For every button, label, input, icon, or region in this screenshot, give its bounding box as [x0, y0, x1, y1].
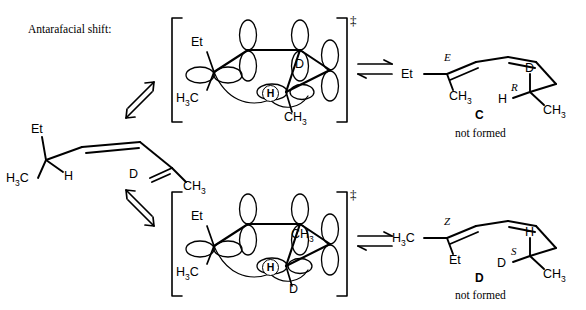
- product-C-alkene-descriptor: E: [444, 52, 451, 63]
- ts-top-hydrogen-circle-label: H: [262, 85, 279, 102]
- equilibrium-arrows-down: [126, 190, 154, 226]
- product-D-status-note: not formed: [455, 290, 506, 302]
- ts-bottom-ethyl-label: Et: [191, 210, 203, 223]
- product-C-methyl-left-label: CH3: [449, 90, 472, 105]
- reactant-deuterium-label: D: [129, 168, 138, 181]
- reaction-scheme: Antarafacial shift: Et H3C H D CH3 Et H3…: [0, 0, 586, 310]
- product-C-ethyl-label: Et: [401, 68, 413, 81]
- page-title: Antarafacial shift:: [28, 24, 111, 36]
- product-C-skeleton: [424, 57, 556, 105]
- product-D-deuterium-label: D: [497, 257, 506, 270]
- product-D-compound-label: D: [475, 272, 484, 284]
- product-C-status-note: not formed: [455, 128, 506, 140]
- reactant-methyl-right-label: CH3: [183, 180, 206, 195]
- equilibrium-arrows-horizontal-top: [358, 60, 392, 78]
- product-C-hydrogen-label: H: [498, 93, 507, 106]
- product-C-compound-label: C: [475, 109, 484, 121]
- ts-top-methyl-right-label: CH3: [284, 111, 307, 126]
- ts-top-deuterium-label: D: [295, 58, 304, 71]
- ts-top-ethyl-label: Et: [191, 36, 203, 49]
- product-D-methyl-right-label: CH3: [543, 268, 566, 283]
- product-C-stereo-descriptor: R: [511, 82, 518, 93]
- equilibrium-arrows-horizontal-bottom: [358, 232, 392, 250]
- product-D-skeleton: [424, 221, 556, 269]
- reactant-hydrogen-label: H: [64, 170, 73, 183]
- reactant-ethyl-label: Et: [31, 123, 43, 136]
- ts-bottom-methyl-right-label: CH3: [291, 228, 314, 243]
- ts-bottom-double-dagger-icon: ‡: [350, 188, 357, 201]
- ts-top-double-dagger-icon: ‡: [350, 14, 357, 27]
- product-D-alkene-descriptor: Z: [444, 216, 450, 227]
- ts-bottom-deuterium-label: D: [289, 283, 298, 296]
- product-D-ethyl-label: Et: [449, 254, 461, 267]
- reactant-methyl-label: H3C: [6, 172, 29, 187]
- product-D-hydrogen-label: H: [525, 226, 534, 239]
- product-C-methyl-right-label: CH3: [543, 104, 566, 119]
- ts-bottom-methyl-left-label: H3C: [176, 266, 199, 281]
- ts-bottom-hydrogen-circle-label: H: [262, 259, 279, 276]
- product-D-stereo-descriptor: S: [511, 246, 517, 257]
- product-D-methyl-left-label: H3C: [392, 232, 415, 247]
- product-C-deuterium-label: D: [525, 62, 534, 75]
- equilibrium-arrows-up: [126, 82, 154, 118]
- reactant-skeleton: [38, 137, 186, 182]
- ts-top-methyl-left-label: H3C: [176, 92, 199, 107]
